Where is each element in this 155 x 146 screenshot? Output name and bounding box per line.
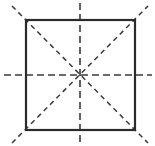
symmetry-figure: Square with lines of symmetry A solid sq… — [0, 0, 155, 146]
figure-canvas: Square with lines of symmetry A solid sq… — [0, 0, 155, 146]
